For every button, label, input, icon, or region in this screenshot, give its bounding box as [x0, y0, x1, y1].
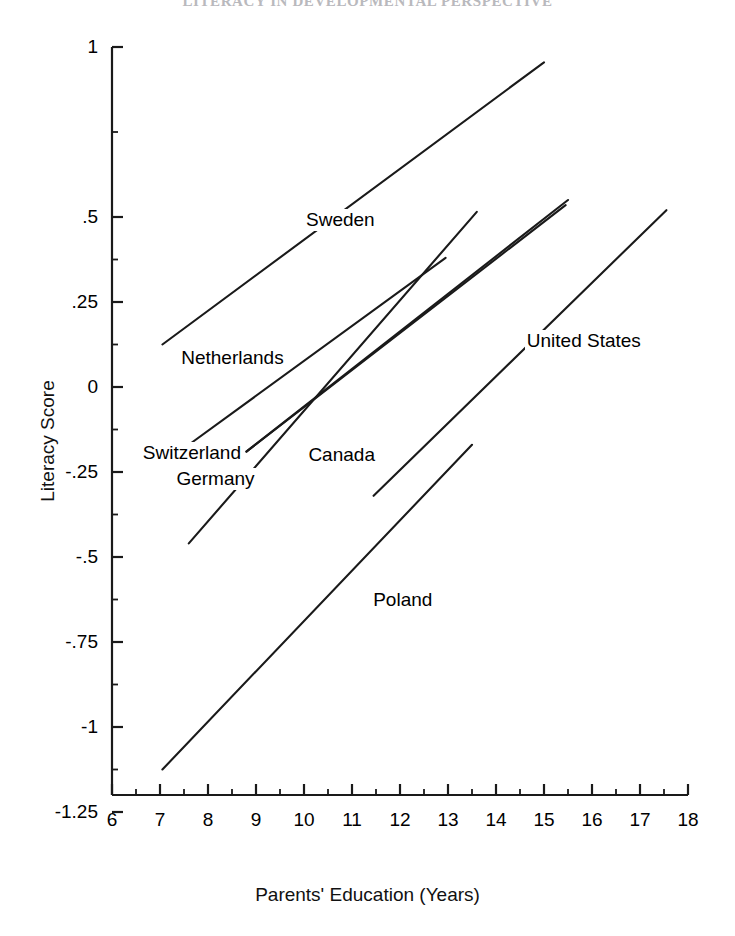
y-axis-tick-label: -.5 [0, 546, 98, 568]
series-label-sweden: Sweden [304, 209, 377, 231]
x-axis-title: Parents' Education (Years) [0, 884, 735, 906]
series-label-canada: Canada [306, 444, 377, 466]
x-axis-tick-label: 7 [155, 809, 166, 831]
chart-plot-area [0, 0, 735, 936]
y-axis-tick-label: -.75 [0, 631, 98, 653]
series-line-netherlands [189, 212, 477, 544]
x-axis-tick-label: 16 [581, 809, 602, 831]
y-axis-tick-label: 1 [0, 36, 98, 58]
x-axis-tick-label: 15 [533, 809, 554, 831]
y-axis-tick-label: -1.25 [0, 801, 98, 823]
y-axis-tick-label: 0 [0, 376, 98, 398]
x-axis-tick-label: 12 [389, 809, 410, 831]
series-line-united-states [374, 210, 667, 496]
y-axis-tick-label: -1 [0, 716, 98, 738]
x-axis-tick-label: 18 [677, 809, 698, 831]
series-line-sweden [162, 62, 544, 344]
x-axis-tick-label: 14 [485, 809, 506, 831]
x-axis-tick-label: 10 [293, 809, 314, 831]
series-label-germany: Germany [174, 468, 256, 490]
x-axis-tick-label: 8 [203, 809, 214, 831]
x-axis-tick-label: 9 [251, 809, 262, 831]
x-axis-tick-label: 11 [342, 809, 362, 831]
series-label-switzerland: Switzerland [141, 442, 243, 464]
x-axis-tick-label: 17 [629, 809, 650, 831]
y-axis-title: Literacy Score [37, 331, 59, 551]
figure-container: Literacy Score Parents' Education (Years… [0, 0, 735, 936]
series-label-united-states: United States [525, 330, 643, 352]
y-axis-tick-label: .5 [0, 206, 98, 228]
x-axis-tick-label: 13 [437, 809, 458, 831]
x-axis-tick-label: 6 [107, 809, 118, 831]
y-axis-tick-label: .25 [0, 291, 98, 313]
series-label-poland: Poland [371, 589, 434, 611]
series-label-netherlands: Netherlands [179, 347, 285, 369]
series-line-germany [246, 205, 565, 452]
y-axis-tick-label: -.25 [0, 461, 98, 483]
